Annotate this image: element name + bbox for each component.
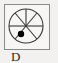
figure-caption: D	[11, 50, 35, 63]
spoke-upper-right-a	[26, 13, 37, 26]
figure-container: D	[0, 0, 58, 63]
spoke-upper-left-a	[15, 13, 26, 26]
spoke-lower-right-a	[26, 26, 37, 39]
wheel-hub-icon	[25, 25, 27, 27]
marker-dot	[18, 31, 24, 37]
